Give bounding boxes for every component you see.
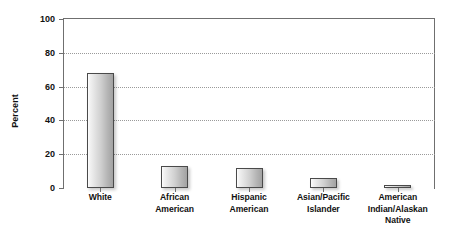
plot-area — [63, 19, 435, 188]
bar-slot — [236, 19, 263, 188]
y-tick-label-60: 60 — [29, 82, 55, 92]
bar-slot — [87, 19, 114, 188]
x-axis-label-line: Hispanic — [212, 192, 286, 204]
y-tick-label-100: 100 — [29, 14, 55, 24]
x-axis-label-line: American — [361, 192, 435, 204]
x-axis-label: White — [63, 192, 137, 204]
x-axis-category-labels: WhiteAfricanAmericanHispanicAmericanAsia… — [63, 192, 435, 233]
x-axis-label-line: African — [137, 192, 211, 204]
x-axis-label-line: American — [137, 204, 211, 216]
x-axis-label-line: White — [63, 192, 137, 204]
bar-slot — [384, 19, 411, 188]
y-tick-label-80: 80 — [29, 48, 55, 58]
y-axis-line — [63, 18, 64, 189]
bar — [161, 166, 188, 188]
x-axis-label-line: Asian/Pacific — [286, 192, 360, 204]
x-axis-label: HispanicAmerican — [212, 192, 286, 215]
x-axis-label-line: Native — [361, 215, 435, 227]
y-tick-label-0: 0 — [29, 183, 55, 193]
bar — [87, 73, 114, 188]
y-axis-title: Percent — [10, 76, 20, 146]
x-axis-label-line: Indian/Alaskan — [361, 204, 435, 216]
bar-chart-figure: Percent 020406080100 WhiteAfricanAmerica… — [0, 0, 450, 233]
x-axis-label: AfricanAmerican — [137, 192, 211, 215]
x-axis-label: Asian/PacificIslander — [286, 192, 360, 215]
x-axis-label-line: American — [212, 204, 286, 216]
plot-right-border — [434, 18, 435, 189]
bar — [310, 178, 337, 188]
bar-slot — [161, 19, 188, 188]
x-axis-label: AmericanIndian/AlaskanNative — [361, 192, 435, 227]
x-axis-label-line: Islander — [286, 204, 360, 216]
y-tick-label-20: 20 — [29, 149, 55, 159]
y-tick-label-40: 40 — [29, 115, 55, 125]
bar-slot — [310, 19, 337, 188]
bar — [236, 168, 263, 188]
y-axis-tick-labels: 020406080100 — [29, 19, 55, 188]
